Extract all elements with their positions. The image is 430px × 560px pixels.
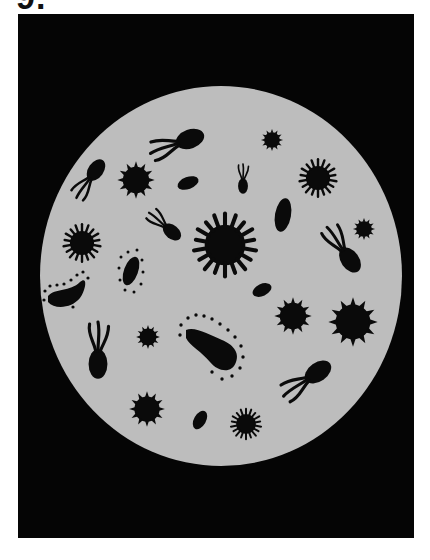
petri-dish-illustration	[0, 0, 430, 560]
petri-dish	[40, 86, 402, 466]
